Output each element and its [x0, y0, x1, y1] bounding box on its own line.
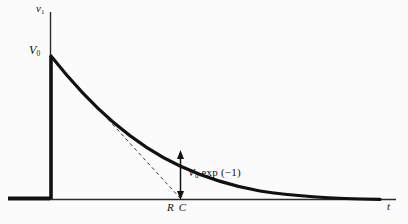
- y-axis-label-sub: 1: [41, 8, 45, 15]
- figure-background: [0, 0, 408, 224]
- decay-annotation-label: V0 exp (−1): [188, 166, 241, 179]
- decay-annotation-symbol: V: [188, 166, 195, 178]
- decay-annotation-expression: exp (−1): [199, 166, 241, 178]
- time-constant-label: R C: [167, 201, 187, 213]
- x-axis-label: t: [387, 200, 390, 212]
- rc-decay-figure: [0, 0, 408, 224]
- initial-value-label-sub: 0: [37, 49, 41, 58]
- initial-value-label-text: V: [29, 43, 37, 57]
- y-axis-label: v1: [36, 2, 45, 15]
- initial-value-label: V0: [29, 43, 40, 58]
